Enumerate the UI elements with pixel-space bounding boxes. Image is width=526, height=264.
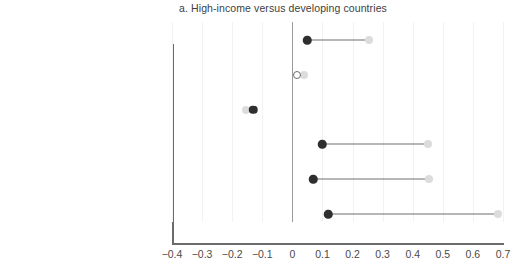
gridline — [353, 22, 354, 222]
x-tick-label: −0.4 — [162, 248, 183, 260]
x-tick-label: 0.4 — [405, 248, 420, 260]
x-tick-label: −0.1 — [252, 248, 273, 260]
gridline — [172, 22, 173, 222]
data-point-developing — [365, 36, 373, 44]
connector-line — [322, 144, 427, 145]
x-tick-label: 0.5 — [436, 248, 451, 260]
gridline — [202, 22, 203, 222]
data-point-high-income — [293, 71, 301, 79]
data-point-developing — [300, 71, 308, 79]
data-point-high-income — [303, 36, 312, 45]
x-tick-label: 0.2 — [345, 248, 360, 260]
data-point-high-income — [318, 140, 327, 149]
data-point-developing — [494, 210, 502, 218]
plot-inner: Labor productivity growthSales growthEmp… — [172, 22, 503, 230]
gridline — [503, 22, 504, 222]
gridline — [232, 22, 233, 222]
x-tick-label: −0.2 — [222, 248, 243, 260]
data-point-high-income — [324, 210, 333, 219]
gridline — [262, 22, 263, 222]
gridline — [383, 22, 384, 222]
connector-line — [328, 214, 498, 215]
x-axis-spine — [172, 243, 504, 245]
chart-container: a. High-income versus developing countri… — [0, 0, 526, 264]
x-tick-label: 0.7 — [496, 248, 511, 260]
gridline — [322, 22, 323, 222]
data-point-high-income — [249, 105, 258, 114]
x-tick-label: −0.3 — [192, 248, 213, 260]
x-tick-label: 0.3 — [375, 248, 390, 260]
x-tick-label: 0.6 — [466, 248, 481, 260]
data-point-developing — [425, 175, 433, 183]
x-tick-label: 0.1 — [315, 248, 330, 260]
gridline — [443, 22, 444, 222]
data-point-high-income — [309, 175, 318, 184]
data-point-developing — [424, 140, 432, 148]
gridline — [413, 22, 414, 222]
x-tick-label: 0 — [289, 248, 295, 260]
plot-area: Labor productivity growthSales growthEmp… — [0, 22, 526, 230]
gridline — [473, 22, 474, 222]
chart-title: a. High-income versus developing countri… — [0, 2, 526, 14]
zero-reference-line — [292, 22, 293, 222]
connector-line — [307, 40, 369, 41]
connector-line — [313, 179, 429, 180]
